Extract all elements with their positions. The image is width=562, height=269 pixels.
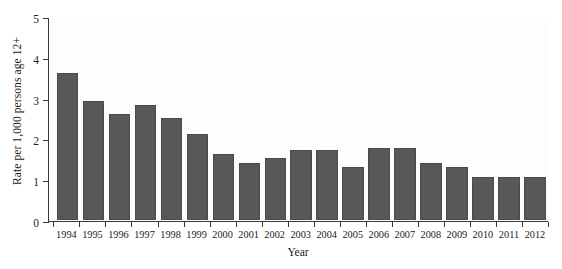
y-tick-label: 1 — [15, 173, 39, 191]
x-tick-label: 2010 — [470, 227, 496, 243]
y-tick: 2 — [43, 140, 49, 141]
bar — [213, 154, 235, 219]
y-tick-label: 4 — [15, 51, 39, 69]
x-tick-label: 1998 — [158, 227, 184, 243]
x-tick-label: 2005 — [340, 227, 366, 243]
bar-slot — [496, 18, 522, 220]
x-tick-label: 2006 — [366, 227, 392, 243]
bar-slot — [366, 18, 392, 220]
bar — [498, 177, 520, 220]
x-tick-label: 2009 — [444, 227, 470, 243]
y-tick-label: 3 — [15, 92, 39, 110]
bar — [83, 101, 105, 219]
x-tick-label: 1997 — [131, 227, 157, 243]
bar — [446, 167, 468, 220]
y-tick: 1 — [43, 181, 49, 182]
bar-slot — [262, 18, 288, 220]
y-tick: 3 — [43, 100, 49, 101]
bar-slot — [340, 18, 366, 220]
x-tick-label: 2004 — [314, 227, 340, 243]
x-tick-label: 2012 — [522, 227, 548, 243]
y-tick-label: 0 — [15, 214, 39, 232]
bar — [57, 73, 79, 220]
bar-slot — [158, 18, 184, 220]
bar-slot — [444, 18, 470, 220]
x-tick-label: 2002 — [262, 227, 288, 243]
bar-slot — [80, 18, 106, 220]
bar — [239, 163, 261, 220]
bar — [472, 177, 494, 220]
x-tick-label: 2000 — [210, 227, 236, 243]
bar — [109, 114, 131, 220]
y-tick: 5 — [43, 18, 49, 19]
bar — [187, 134, 209, 220]
bar — [290, 150, 312, 219]
bar — [265, 158, 287, 219]
bar-slot — [314, 18, 340, 220]
x-tick-label: 1995 — [79, 227, 105, 243]
bar — [135, 105, 157, 219]
bar-slot — [132, 18, 158, 220]
bar — [161, 118, 183, 220]
bar-slot — [54, 18, 80, 220]
bar — [316, 150, 338, 219]
x-tick-label: 2008 — [418, 227, 444, 243]
bar — [394, 148, 416, 219]
y-tick-label: 2 — [15, 132, 39, 150]
x-tick-label: 1994 — [53, 227, 79, 243]
x-tick-label: 2007 — [392, 227, 418, 243]
x-axis-title: Year — [48, 244, 548, 260]
x-tick-label: 1996 — [105, 227, 131, 243]
bar — [524, 177, 546, 220]
y-tick: 4 — [43, 59, 49, 60]
bar-slot — [236, 18, 262, 220]
bar-slot — [106, 18, 132, 220]
bar-slot — [210, 18, 236, 220]
bar-series — [50, 18, 548, 220]
bar-slot — [392, 18, 418, 220]
bar-slot — [184, 18, 210, 220]
x-axis-tick-labels: 1994199519961997199819992000200120022003… — [48, 227, 548, 243]
x-tick-label: 1999 — [184, 227, 210, 243]
plot-area: 012345 — [48, 18, 548, 222]
x-tick-label: 2001 — [236, 227, 262, 243]
bar — [420, 163, 442, 220]
bar — [342, 167, 364, 220]
bar — [368, 148, 390, 219]
x-tick-label: 2011 — [496, 227, 522, 243]
bar-chart-figure: Rate per 1,000 persons age 12+ 012345 19… — [0, 0, 562, 269]
bar-slot — [522, 18, 548, 220]
y-tick-label: 5 — [15, 10, 39, 28]
bar-slot — [470, 18, 496, 220]
x-tick — [548, 222, 549, 227]
bar-slot — [418, 18, 444, 220]
x-tick-label: 2003 — [288, 227, 314, 243]
bar-slot — [288, 18, 314, 220]
